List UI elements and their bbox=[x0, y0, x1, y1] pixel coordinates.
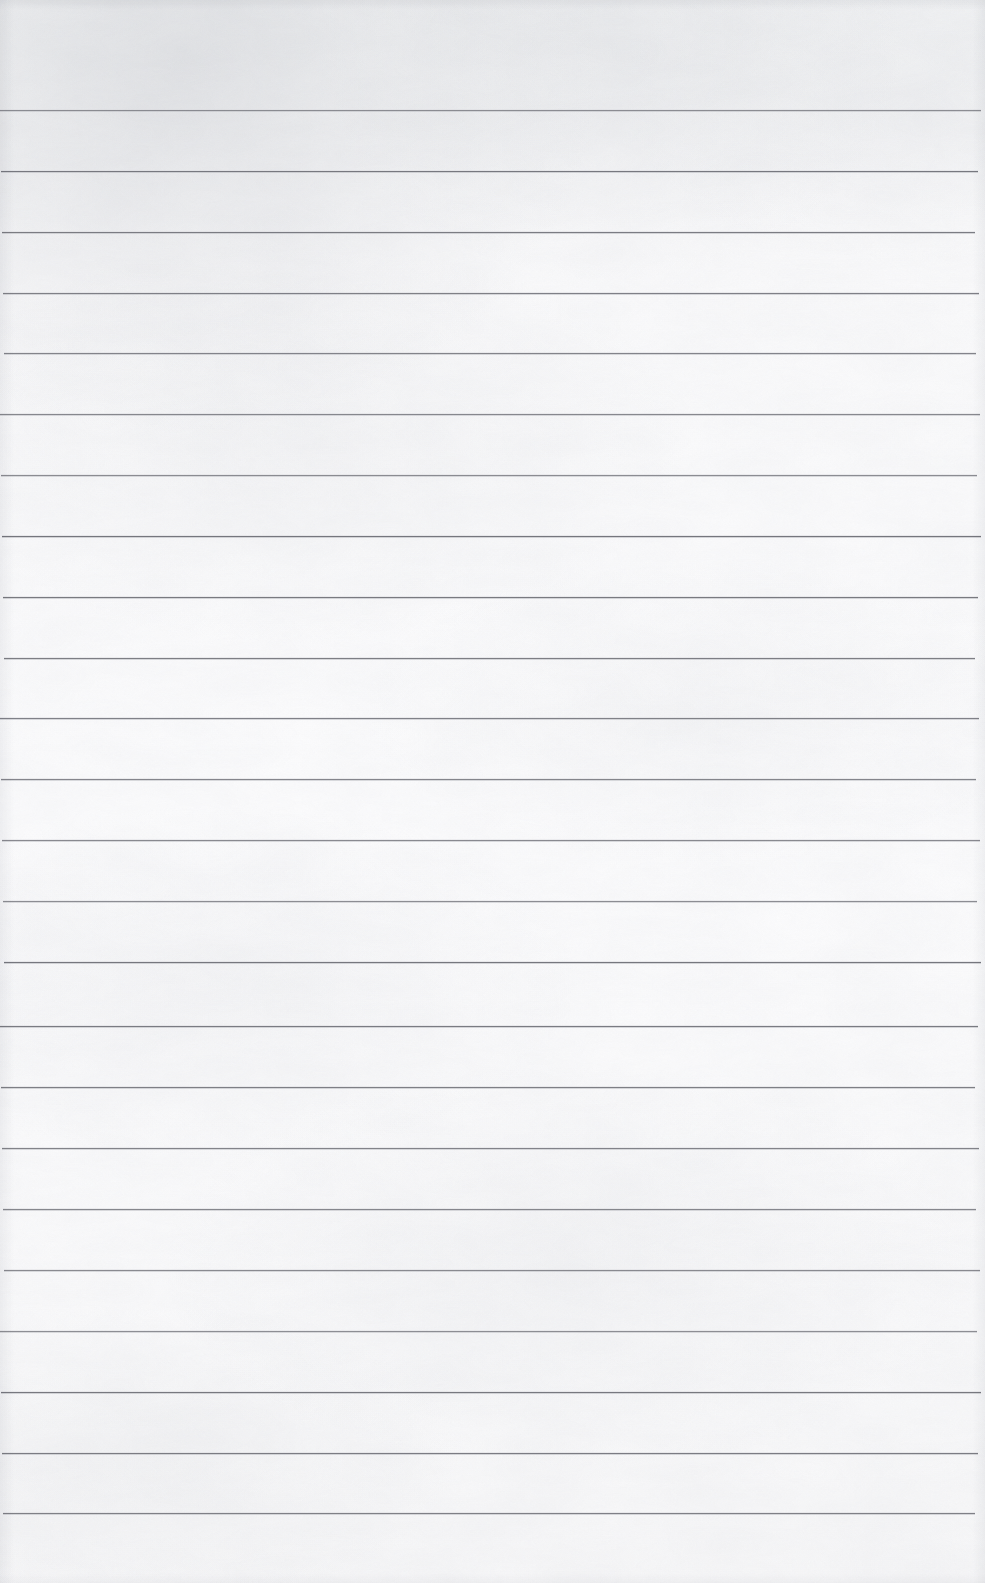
rule-line bbox=[1, 779, 976, 780]
rule-line bbox=[3, 901, 977, 902]
scanned-page bbox=[0, 0, 985, 1583]
paper-mottle-texture bbox=[0, 0, 985, 1583]
paper-grain-texture bbox=[0, 0, 985, 1583]
rule-line bbox=[2, 840, 980, 841]
ruled-lines bbox=[0, 0, 985, 1583]
rule-line bbox=[0, 718, 979, 719]
rule-line bbox=[1, 1392, 981, 1393]
rule-line bbox=[4, 962, 981, 963]
rule-line bbox=[1, 475, 977, 476]
rule-line bbox=[2, 536, 981, 537]
rule-line bbox=[0, 110, 981, 111]
rule-line bbox=[0, 414, 980, 415]
rule-line bbox=[0, 1331, 977, 1332]
rule-line bbox=[1, 1087, 975, 1088]
rule-line bbox=[1, 171, 978, 172]
rule-line bbox=[4, 1270, 980, 1271]
rule-line bbox=[0, 1026, 978, 1027]
rule-line bbox=[3, 1209, 976, 1210]
rule-line bbox=[2, 1148, 979, 1149]
paper-background bbox=[0, 0, 985, 1583]
rule-line bbox=[2, 232, 975, 233]
scan-edge-vignette bbox=[0, 0, 985, 1583]
rule-line bbox=[4, 353, 976, 354]
rule-line bbox=[3, 597, 978, 598]
rule-line bbox=[3, 1513, 975, 1514]
rule-line bbox=[4, 658, 975, 659]
rule-line bbox=[2, 1453, 978, 1454]
rule-line bbox=[3, 293, 979, 294]
